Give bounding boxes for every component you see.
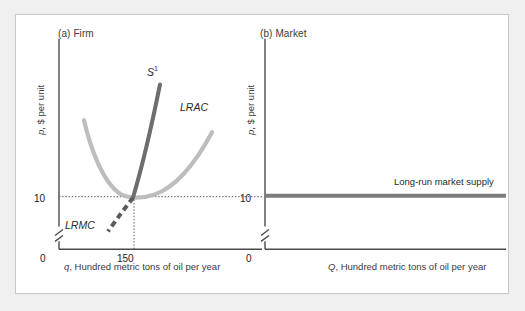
lrmc-curve — [108, 198, 133, 232]
panel-firm: (a) Firm p, $ per unit q, Hundred metric… — [16, 15, 266, 293]
figure-panel: (a) Firm p, $ per unit q, Hundred metric… — [15, 14, 509, 294]
panel-market: (b) Market p, $ per unit Q, Hundred metr… — [238, 15, 510, 293]
panel-market-y-axis-break-icon — [261, 229, 269, 241]
page-top-strip — [0, 0, 525, 9]
supply-curve — [133, 85, 160, 198]
panel-firm-plot — [16, 15, 266, 293]
panel-market-plot — [238, 15, 510, 293]
panel-firm-y-axis-break-icon — [55, 229, 63, 241]
